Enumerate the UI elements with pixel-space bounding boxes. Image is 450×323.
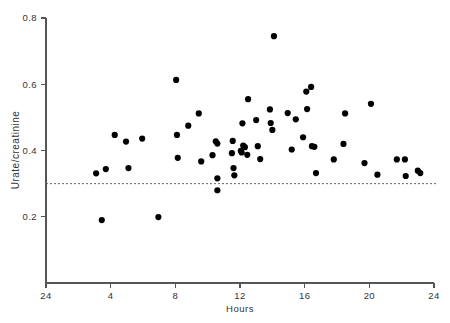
data-point <box>209 152 215 158</box>
x-tick-label: 16 <box>299 290 310 301</box>
data-point <box>139 135 145 141</box>
data-point <box>174 132 180 138</box>
data-point <box>123 138 129 144</box>
data-point <box>268 120 274 126</box>
data-point <box>269 127 275 133</box>
x-tick-label: 24 <box>40 290 51 301</box>
data-point <box>230 138 236 144</box>
y-axis-ticks: 0.20.40.60.8 <box>23 12 46 222</box>
data-point <box>103 166 109 172</box>
x-tick-label: 8 <box>172 290 178 301</box>
data-point <box>242 144 248 150</box>
data-point <box>311 144 317 150</box>
y-tick-label: 0.6 <box>23 79 37 90</box>
data-point <box>289 146 295 152</box>
data-point <box>293 116 299 122</box>
x-axis-title: Hours <box>226 303 254 314</box>
x-axis-ticks: 244812162024 <box>40 283 439 301</box>
data-point <box>300 134 306 140</box>
data-point <box>230 165 236 171</box>
data-point <box>304 106 310 112</box>
data-point <box>239 120 245 126</box>
data-point <box>93 170 99 176</box>
data-point <box>403 173 409 179</box>
scatter-plot-figure: 0.20.40.60.8 244812162024 Hours Urate/cr… <box>0 0 450 323</box>
x-tick-label: 20 <box>364 290 375 301</box>
data-point <box>112 132 118 138</box>
data-point <box>155 214 161 220</box>
data-point <box>214 187 220 193</box>
data-point <box>244 152 250 158</box>
data-point <box>402 156 408 162</box>
data-point <box>214 175 220 181</box>
data-point <box>231 172 237 178</box>
data-point <box>331 156 337 162</box>
data-point <box>229 150 235 156</box>
data-point <box>198 158 204 164</box>
data-point <box>239 149 245 155</box>
data-point <box>267 106 273 112</box>
y-tick-label: 0.8 <box>23 12 37 23</box>
x-tick-label: 24 <box>428 290 439 301</box>
data-point <box>255 143 261 149</box>
data-point <box>313 170 319 176</box>
data-point <box>99 217 105 223</box>
data-point <box>245 96 251 102</box>
data-point <box>253 117 259 123</box>
data-point <box>361 160 367 166</box>
data-point <box>308 84 314 90</box>
data-point <box>368 101 374 107</box>
data-point <box>303 88 309 94</box>
data-point <box>175 155 181 161</box>
data-point <box>271 33 277 39</box>
data-point <box>214 140 220 146</box>
y-tick-label: 0.4 <box>23 145 37 156</box>
data-point <box>340 141 346 147</box>
data-point <box>257 156 263 162</box>
data-point <box>196 110 202 116</box>
data-points-layer <box>93 33 423 223</box>
data-point <box>125 165 131 171</box>
data-point <box>342 110 348 116</box>
data-point <box>417 170 423 176</box>
y-axis-title: Urate/creatinine <box>10 111 21 190</box>
x-tick-label: 12 <box>234 290 245 301</box>
plot-canvas: 0.20.40.60.8 244812162024 Hours Urate/cr… <box>0 0 450 323</box>
y-tick-label: 0.2 <box>23 211 37 222</box>
data-point <box>374 172 380 178</box>
data-point <box>185 123 191 129</box>
data-point <box>394 156 400 162</box>
data-point <box>285 110 291 116</box>
data-point <box>173 77 179 83</box>
x-tick-label: 4 <box>108 290 114 301</box>
